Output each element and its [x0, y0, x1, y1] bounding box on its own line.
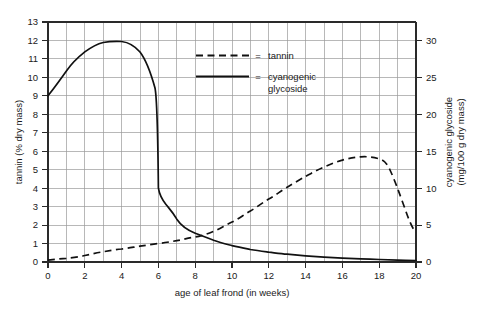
left-tick-label: 8 — [33, 109, 38, 120]
left-tick-label: 13 — [27, 16, 38, 27]
right-tick-label: 0 — [426, 256, 431, 267]
x-axis-tick-labels: 0 2 4 6 8 10 12 14 16 18 20 — [45, 270, 421, 281]
right-tick-label: 30 — [426, 35, 437, 46]
y-axis-title: tannin (% dry mass) — [13, 100, 24, 184]
x-tick-label: 6 — [156, 270, 161, 281]
left-tick-label: 9 — [33, 90, 38, 101]
x-tick-label: 8 — [193, 270, 198, 281]
left-tick-label: 2 — [33, 219, 38, 230]
right-axis-tick-labels: 0 5 10 15 20 25 30 — [426, 35, 437, 268]
left-tick-label: 1 — [33, 238, 38, 249]
right-tick-label: 15 — [426, 146, 437, 157]
y2-axis-title-line1: cyanogenic glycoside — [443, 97, 454, 187]
legend-equals-tannin: = — [255, 50, 261, 61]
left-tick-label: 5 — [33, 164, 38, 175]
legend-label-tannin: tannin — [268, 50, 294, 61]
legend-label-cyanogenic-glycoside-line1: cyanogenic — [268, 71, 316, 82]
x-tick-label: 18 — [374, 270, 385, 281]
x-tick-label: 0 — [45, 270, 50, 281]
x-axis-title: age of leaf frond (in weeks) — [175, 287, 290, 298]
left-axis-tick-labels: 13 12 11 10 9 8 7 6 5 4 3 2 1 0 — [27, 16, 38, 267]
left-tick-label: 0 — [33, 256, 38, 267]
x-tick-label: 16 — [337, 270, 348, 281]
x-tick-label: 2 — [82, 270, 87, 281]
left-tick-label: 6 — [33, 146, 38, 157]
x-tick-label: 4 — [119, 270, 124, 281]
legend-equals-cyanogenic-glycoside: = — [255, 71, 261, 82]
right-tick-label: 25 — [426, 72, 437, 83]
left-axis-ticks — [42, 22, 48, 262]
x-tick-label: 12 — [264, 270, 275, 281]
left-tick-label: 11 — [28, 53, 38, 64]
x-tick-label: 14 — [300, 270, 311, 281]
right-tick-label: 5 — [426, 219, 431, 230]
right-tick-label: 10 — [426, 183, 437, 194]
line-chart: 13 12 11 10 9 8 7 6 5 4 3 2 1 0 0 5 10 1… — [0, 0, 480, 309]
right-axis-ticks — [416, 40, 422, 262]
left-tick-label: 7 — [33, 127, 38, 138]
left-tick-label: 3 — [33, 201, 38, 212]
left-tick-label: 4 — [33, 183, 38, 194]
x-tick-label: 20 — [411, 270, 422, 281]
chart-figure: 13 12 11 10 9 8 7 6 5 4 3 2 1 0 0 5 10 1… — [0, 0, 480, 309]
right-tick-label: 20 — [426, 109, 437, 120]
x-axis-ticks — [48, 262, 416, 268]
left-tick-label: 12 — [27, 35, 38, 46]
legend-label-cyanogenic-glycoside-line2: glycoside — [268, 83, 308, 94]
y2-axis-title-line2: (mg/100 g dry mass) — [455, 98, 466, 185]
left-tick-label: 10 — [27, 72, 38, 83]
x-tick-label: 10 — [227, 270, 238, 281]
